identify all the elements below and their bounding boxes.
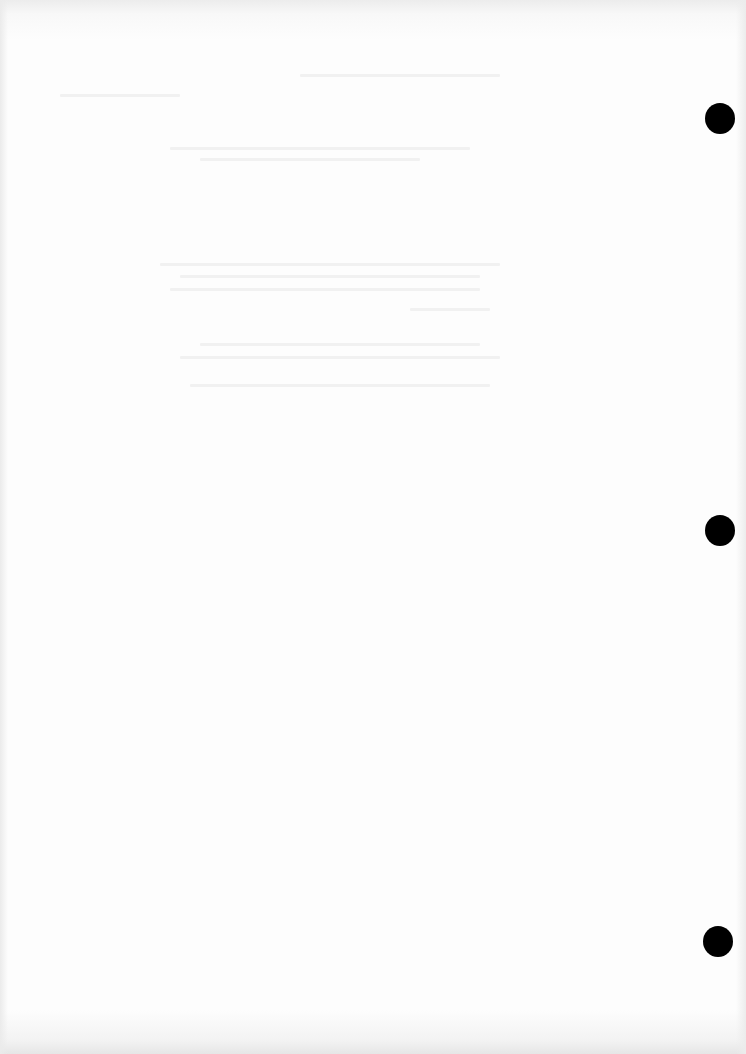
page-edge-shadow-left (0, 0, 8, 1054)
bleed-through-mark (410, 308, 490, 311)
bleed-through-mark (180, 275, 480, 278)
punch-hole-middle (705, 515, 735, 546)
bleed-through-mark (200, 343, 480, 346)
bleed-through-mark (200, 158, 420, 161)
bleed-through-mark (170, 288, 480, 291)
punch-hole-top (705, 103, 735, 134)
bleed-through-mark (60, 94, 180, 97)
scanned-blank-page (0, 0, 746, 1054)
bleed-through-mark (160, 263, 500, 266)
bleed-through-mark (300, 74, 500, 77)
bleed-through-mark (180, 356, 500, 359)
punch-hole-bottom (703, 926, 733, 957)
page-edge-shadow-right (736, 0, 746, 1054)
bleed-through-mark (190, 384, 490, 387)
bleed-through-mark (170, 147, 470, 150)
